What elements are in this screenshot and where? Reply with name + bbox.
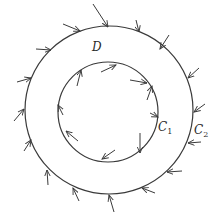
vector-arrow [47,170,48,185]
vector-arrow [188,142,201,143]
inner-curve-c1 [58,62,158,162]
vector-arrow [130,80,147,83]
vector-arrow [24,140,31,151]
vector-arrow [36,49,51,50]
c1-letter: C [158,120,167,134]
vector-arrow [167,171,182,172]
vector-arrow [58,105,63,115]
vector-arrow [73,188,79,201]
vector-arrow [66,131,78,141]
c2-letter: C [194,123,203,137]
vector-arrow [188,68,199,78]
vector-arrow [194,104,205,112]
vector-arrow [147,86,152,100]
vector-arrow [63,24,80,31]
c2-subscript: 2 [203,130,208,139]
vector-arrow [102,150,115,159]
vector-arrow [93,4,108,27]
vector-arrow [142,188,155,193]
vector-arrow [101,65,116,72]
vector-arrow [14,109,24,121]
vector-arrow [109,195,114,212]
annulus-diagram [0,0,218,219]
curve-label-c1: C1 [158,121,172,136]
curve-label-c2: C2 [194,124,208,139]
region-label-text: D [92,40,102,54]
region-label-d: D [92,41,102,53]
outer-vector-arrows [14,4,205,212]
vector-arrow [150,113,158,117]
vector-arrow [17,78,31,82]
c1-subscript: 1 [167,127,172,136]
outer-curve-c2 [25,26,193,194]
inner-vector-arrows [58,65,158,159]
